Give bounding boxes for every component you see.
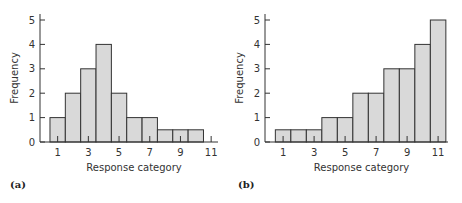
x-axis-label: Response category xyxy=(86,162,181,173)
y-tick-label: 3 xyxy=(254,63,260,74)
x-tick-label: 3 xyxy=(85,147,91,158)
x-tick-label: 7 xyxy=(147,147,153,158)
y-axis-label: Frequency xyxy=(234,52,245,104)
histogram-bar xyxy=(81,69,96,142)
y-tick-label: 5 xyxy=(29,15,35,26)
histogram-bar xyxy=(368,93,384,142)
histogram-bar xyxy=(127,118,142,142)
panel-label: (b) xyxy=(238,179,254,190)
histogram-bar xyxy=(188,130,203,142)
y-tick-label: 2 xyxy=(29,88,35,99)
x-tick-label: 5 xyxy=(116,147,122,158)
histogram-bar xyxy=(353,93,369,142)
x-tick-label: 5 xyxy=(342,147,348,158)
x-tick-label: 11 xyxy=(205,147,218,158)
x-tick-label: 7 xyxy=(373,147,379,158)
histogram-bar xyxy=(96,44,111,142)
x-tick-label: 3 xyxy=(311,147,317,158)
x-axis-label: Response category xyxy=(314,162,409,173)
y-tick-label: 0 xyxy=(29,137,35,148)
histogram-bar xyxy=(111,93,126,142)
histogram-bar xyxy=(291,130,307,142)
x-tick-label: 9 xyxy=(404,147,410,158)
panel-label: (a) xyxy=(10,179,26,190)
y-tick-label: 1 xyxy=(254,112,260,123)
x-tick-label: 11 xyxy=(432,147,445,158)
x-tick-label: 9 xyxy=(177,147,183,158)
histogram-bar xyxy=(65,93,80,142)
y-tick-label: 4 xyxy=(254,39,260,50)
histogram-b: 0123451357911Response categoryFrequency(… xyxy=(234,14,448,190)
histogram-bar xyxy=(157,130,172,142)
histogram-bar xyxy=(384,69,400,142)
y-tick-label: 1 xyxy=(29,112,35,123)
x-tick-label: 1 xyxy=(54,147,60,158)
y-tick-label: 0 xyxy=(254,137,260,148)
y-axis-label: Frequency xyxy=(9,52,20,104)
histogram-bar xyxy=(399,69,415,142)
y-tick-label: 2 xyxy=(254,88,260,99)
histogram-bar xyxy=(415,44,431,142)
y-tick-label: 4 xyxy=(29,39,35,50)
y-tick-label: 3 xyxy=(29,63,35,74)
y-tick-label: 5 xyxy=(254,15,260,26)
histogram-figure: 0123451357911Response categoryFrequency(… xyxy=(0,0,462,203)
histogram-bar xyxy=(430,20,446,142)
histogram-bar xyxy=(322,118,338,142)
x-tick-label: 1 xyxy=(280,147,286,158)
histogram-a: 0123451357911Response categoryFrequency(… xyxy=(9,14,218,190)
